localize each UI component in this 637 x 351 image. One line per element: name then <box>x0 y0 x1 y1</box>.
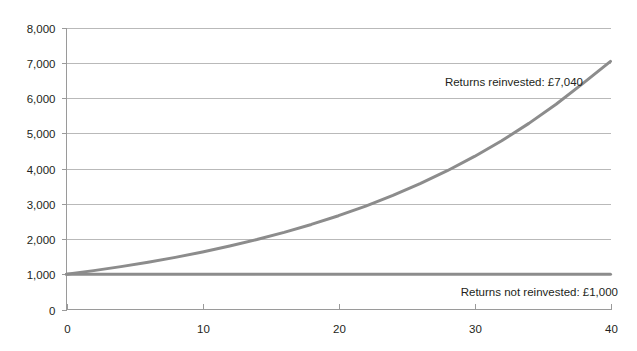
y-tick-label-5000: 5,000 <box>27 128 56 140</box>
y-axis-tick-labels-group: 01,0002,0003,0004,0005,0006,0007,0008,00… <box>27 23 56 317</box>
y-tick-label-6000: 6,000 <box>27 93 56 105</box>
y-tick-label-2000: 2,000 <box>27 234 56 246</box>
x-tick-label-20: 20 <box>333 323 346 335</box>
annotation-label-1: Returns reinvested: £7,040 <box>445 76 583 88</box>
chart-container: 01,0002,0003,0004,0005,0006,0007,0008,00… <box>0 0 637 351</box>
x-tick-label-40: 40 <box>605 323 618 335</box>
x-tick-label-10: 10 <box>197 323 210 335</box>
y-tick-label-8000: 8,000 <box>27 23 56 35</box>
y-tick-label-4000: 4,000 <box>27 164 56 176</box>
growth-comparison-line-chart: 01,0002,0003,0004,0005,0006,0007,0008,00… <box>0 0 637 351</box>
x-tick-label-30: 30 <box>469 323 482 335</box>
y-tick-label-3000: 3,000 <box>27 199 56 211</box>
x-tick-label-0: 0 <box>64 323 70 335</box>
y-tick-label-7000: 7,000 <box>27 58 56 70</box>
y-tick-label-0: 0 <box>49 305 55 317</box>
chart-background <box>0 0 637 351</box>
y-tick-label-1000: 1,000 <box>27 269 56 281</box>
annotation-label-2: Returns not reinvested: £1,000 <box>461 286 618 298</box>
